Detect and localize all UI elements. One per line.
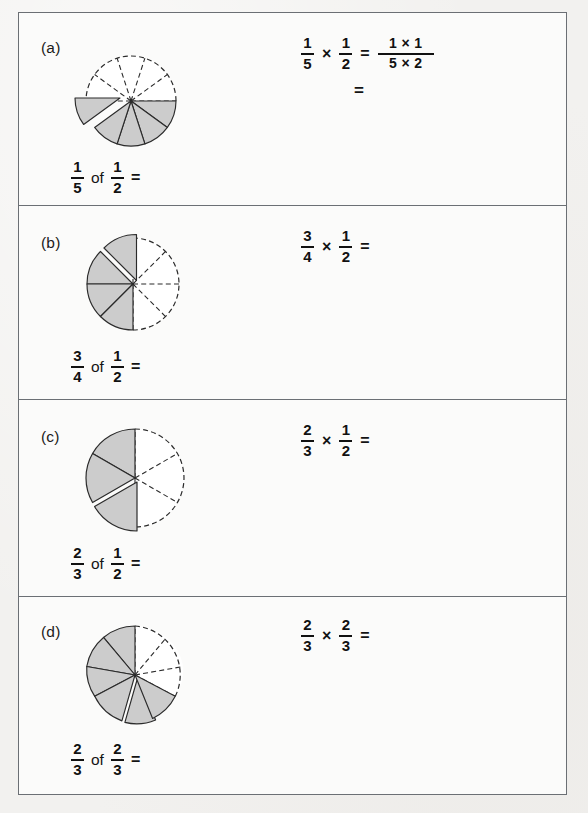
- right-expression-a: 1 5 × 1 2 = 1 × 1 5 × 2: [301, 35, 434, 73]
- denominator: 3: [302, 443, 312, 460]
- denominator: 4: [302, 249, 312, 266]
- equals-sign-c-right: =: [360, 432, 369, 450]
- numerator: 1: [112, 545, 122, 562]
- right-expression-d: 2 3 × 2 3 =: [301, 617, 370, 655]
- pie-diagram-d: [77, 617, 193, 737]
- bottom-expression-d: 2 3 of 2 3 =: [71, 741, 140, 779]
- denominator: 5: [302, 56, 312, 73]
- fraction-second-b: 1 2: [339, 228, 352, 266]
- panel-label-b: (b): [41, 234, 61, 252]
- connector-of-a: of: [91, 169, 104, 187]
- denominator: 5: [72, 180, 82, 197]
- denominator: 2: [341, 249, 351, 266]
- pie-diagram-b: [77, 228, 189, 344]
- pie-svg-b: [77, 228, 189, 340]
- exercise-panel-b: (b): [19, 206, 566, 400]
- numerator: 2: [112, 741, 122, 758]
- fraction-one-fifth-a: 1 5: [71, 159, 84, 197]
- numerator: 1: [341, 228, 351, 245]
- fraction-result-a: 1 × 1 5 × 2: [378, 36, 434, 72]
- connector-of-d: of: [91, 751, 104, 769]
- pie-svg-a: [71, 41, 191, 161]
- fraction-one-half-b: 1 2: [111, 348, 124, 386]
- fraction-two-thirds-d: 2 3: [71, 741, 84, 779]
- fraction-two-thirds-c: 2 3: [71, 545, 84, 583]
- denominator: 3: [341, 638, 351, 655]
- pie-svg-c: [77, 420, 193, 536]
- fraction-first-b: 3 4: [301, 228, 314, 266]
- multiply-sign-a: ×: [322, 45, 331, 63]
- numerator: 1: [302, 35, 312, 52]
- numerator: 1: [112, 159, 122, 176]
- pie-diagram-a: [71, 41, 191, 165]
- denominator: 5 × 2: [388, 56, 424, 72]
- multiply-sign-b: ×: [322, 238, 331, 256]
- fraction-first-d: 2 3: [301, 617, 314, 655]
- equals-sign-d: =: [131, 751, 140, 769]
- worksheet-frame: (a): [18, 12, 567, 795]
- numerator: 1: [112, 348, 122, 365]
- denominator: 3: [72, 762, 82, 779]
- denominator: 2: [112, 180, 122, 197]
- multiply-sign-c: ×: [322, 432, 331, 450]
- numerator: 2: [302, 617, 312, 634]
- numerator: 2: [302, 422, 312, 439]
- panel-label-c: (c): [41, 428, 60, 446]
- numerator: 3: [302, 228, 312, 245]
- fraction-second-c: 1 2: [339, 422, 352, 460]
- right-expression-c: 2 3 × 1 2 =: [301, 422, 370, 460]
- connector-of-c: of: [91, 555, 104, 573]
- equals-sign-b: =: [131, 358, 140, 376]
- connector-of-b: of: [91, 358, 104, 376]
- denominator: 2: [112, 369, 122, 386]
- panel-label-d: (d): [41, 623, 61, 641]
- fraction-second-d: 2 3: [339, 617, 352, 655]
- fraction-two-thirds-second-d: 2 3: [111, 741, 124, 779]
- denominator: 4: [72, 369, 82, 386]
- numerator: 3: [72, 348, 82, 365]
- pie-svg-d: [77, 617, 193, 733]
- exercise-panel-a: (a): [19, 13, 566, 206]
- equals-sign-d-right: =: [360, 627, 369, 645]
- panel-label-a: (a): [41, 39, 61, 57]
- exercise-panel-c: (c): [19, 400, 566, 597]
- denominator: 3: [302, 638, 312, 655]
- equals-sign-a: =: [131, 169, 140, 187]
- numerator: 1: [72, 159, 82, 176]
- exercise-panel-d: (d): [19, 597, 566, 794]
- denominator: 2: [341, 56, 351, 73]
- denominator: 3: [72, 566, 82, 583]
- fraction-one-half-c: 1 2: [111, 545, 124, 583]
- denominator: 2: [112, 566, 122, 583]
- denominator: 2: [341, 443, 351, 460]
- page-background: (a): [0, 0, 588, 813]
- multiply-sign-d: ×: [322, 627, 331, 645]
- fraction-first-c: 2 3: [301, 422, 314, 460]
- numerator: 1: [341, 422, 351, 439]
- numerator: 2: [72, 741, 82, 758]
- numerator: 1 × 1: [388, 36, 424, 52]
- second-line-equals-a: =: [354, 81, 364, 101]
- fraction-one-half-a: 1 2: [111, 159, 124, 197]
- pie-diagram-c: [77, 420, 193, 540]
- denominator: 3: [112, 762, 122, 779]
- fraction-three-quarters-b: 3 4: [71, 348, 84, 386]
- numerator: 1: [341, 35, 351, 52]
- fraction-first-a: 1 5: [301, 35, 314, 73]
- equals-sign-b-right: =: [360, 238, 369, 256]
- numerator: 2: [72, 545, 82, 562]
- equals-sign-c: =: [131, 555, 140, 573]
- fraction-second-a: 1 2: [339, 35, 352, 73]
- right-expression-b: 3 4 × 1 2 =: [301, 228, 370, 266]
- equals-sign-a-right: =: [360, 45, 369, 63]
- bottom-expression-a: 1 5 of 1 2 =: [71, 159, 140, 197]
- bottom-expression-b: 3 4 of 1 2 =: [71, 348, 140, 386]
- bottom-expression-c: 2 3 of 1 2 =: [71, 545, 140, 583]
- numerator: 2: [341, 617, 351, 634]
